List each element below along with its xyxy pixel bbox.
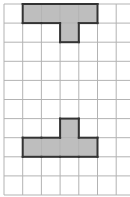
- grid-diagram: [0, 0, 130, 197]
- top-t-shape: [23, 4, 98, 42]
- bottom-t-shape: [23, 119, 98, 157]
